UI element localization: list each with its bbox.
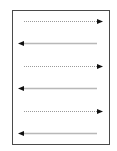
right-arrow-icon bbox=[24, 109, 103, 114]
arrowhead-icon bbox=[97, 64, 103, 69]
left-arrow-icon bbox=[18, 41, 97, 46]
arrowhead-icon bbox=[97, 109, 103, 114]
reading-order-arrows bbox=[0, 0, 117, 151]
left-arrow-icon bbox=[18, 86, 97, 91]
arrowhead-icon bbox=[18, 41, 24, 46]
left-arrow-icon bbox=[18, 131, 97, 136]
arrowhead-icon bbox=[97, 19, 103, 24]
arrowhead-icon bbox=[18, 131, 24, 136]
right-arrow-icon bbox=[24, 19, 103, 24]
right-arrow-icon bbox=[24, 64, 103, 69]
arrowhead-icon bbox=[18, 86, 24, 91]
